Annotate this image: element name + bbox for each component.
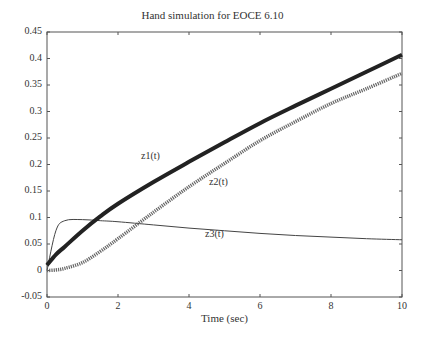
y-tick-label: 0.2 bbox=[30, 158, 43, 169]
curve-label-z3: z3(t) bbox=[205, 228, 224, 239]
series-z3-line bbox=[47, 219, 402, 270]
x-tick-label: 10 bbox=[392, 300, 412, 311]
y-tick-label: 0.05 bbox=[25, 237, 43, 248]
x-tick-label: 6 bbox=[250, 300, 270, 311]
series-z2-line bbox=[47, 73, 402, 270]
y-tick-label: 0 bbox=[37, 264, 42, 275]
y-tick-label: 0.25 bbox=[25, 131, 43, 142]
curve-label-z1: z1(t) bbox=[141, 150, 160, 161]
plot-area bbox=[0, 0, 425, 339]
x-tick-label: 8 bbox=[321, 300, 341, 311]
y-tick-label: 0.35 bbox=[25, 78, 43, 89]
curve-label-z2: z2(t) bbox=[209, 176, 228, 187]
x-axis-label: Time (sec) bbox=[47, 312, 402, 324]
x-tick-label: 4 bbox=[179, 300, 199, 311]
y-tick-label: 0.3 bbox=[30, 105, 43, 116]
y-tick-label: 0.15 bbox=[25, 184, 43, 195]
series-z1-line bbox=[47, 55, 402, 265]
x-tick-label: 0 bbox=[37, 300, 57, 311]
x-tick-label: 2 bbox=[108, 300, 128, 311]
y-tick-label: 0.1 bbox=[30, 211, 43, 222]
y-tick-label: 0.4 bbox=[30, 52, 43, 63]
y-tick-label: 0.45 bbox=[25, 25, 43, 36]
